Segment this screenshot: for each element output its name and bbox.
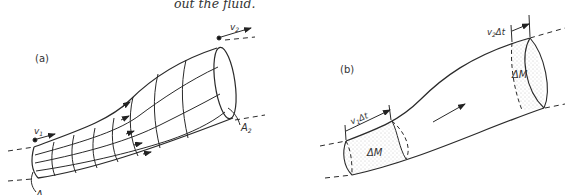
delta-m-right: ΔM [511,69,528,80]
svg-text:A2: A2 [240,122,252,134]
svg-text:v1: v1 [34,126,43,137]
a1-label: A [35,189,43,195]
v1-sub: 1 [39,130,43,137]
delta-m-left: ΔM [366,147,383,158]
v2dt-rest: Δt [495,27,506,37]
svg-text:A1: A1 [35,189,47,195]
a2-sub: 2 [248,127,252,134]
svg-text:v2: v2 [230,22,239,33]
v2-sub: 2 [235,26,239,33]
continuity-diagram: (a) v1 v2 A1 A2 [0,0,565,195]
panel-b-label: (b) [340,64,354,75]
a1-sub: 1 [43,194,47,195]
panel-a-label: (a) [35,53,49,64]
panel-b [320,15,565,178]
a2-label: A [240,122,248,133]
svg-text:v2Δt: v2Δt [487,27,506,38]
